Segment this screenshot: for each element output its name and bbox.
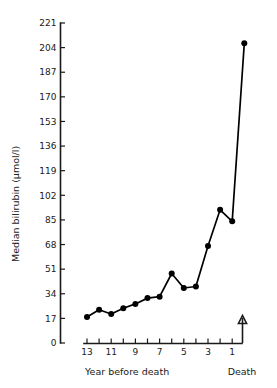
y-tick-label: 170 [39, 92, 56, 102]
bilirubin-line-chart: 01734516885102119136153170187204221 1311… [0, 0, 277, 388]
y-tick-label: 68 [45, 240, 57, 250]
data-point [145, 295, 151, 301]
x-tick-label: 7 [157, 347, 163, 357]
data-point [217, 207, 223, 213]
y-tick-label: 187 [39, 67, 56, 77]
y-tick-label: 136 [39, 141, 56, 151]
data-point [157, 294, 163, 300]
data-point [169, 271, 175, 277]
y-tick-label: 204 [39, 43, 56, 53]
data-series-line [87, 43, 244, 317]
x-tick-label: 1 [229, 347, 235, 357]
data-point [120, 305, 126, 311]
x-axis-title: Year before death [84, 366, 169, 377]
y-axis-tick-labels: 01734516885102119136153170187204221 [39, 18, 56, 348]
x-tick-label: 13 [81, 347, 92, 357]
x-axis-tick-labels: 131197531 [81, 347, 235, 357]
y-axis-title: Median bilirubin (µmol/l) [10, 146, 21, 262]
x-tick-label: 11 [105, 347, 116, 357]
y-tick-label: 34 [45, 289, 57, 299]
data-point [205, 243, 211, 249]
data-point [132, 301, 138, 307]
y-tick-label: 102 [39, 191, 56, 201]
data-point [108, 311, 114, 317]
data-point [241, 40, 247, 46]
data-point [181, 285, 187, 291]
death-label: Death [228, 366, 257, 377]
y-tick-label: 221 [39, 18, 56, 28]
y-tick-label: 51 [45, 264, 56, 274]
y-tick-label: 85 [45, 215, 56, 225]
x-tick-label: 3 [205, 347, 211, 357]
data-point [229, 218, 235, 224]
chart-container: 01734516885102119136153170187204221 1311… [0, 0, 277, 388]
data-point [84, 314, 90, 320]
x-axis-ticks [87, 339, 232, 344]
y-tick-label: 17 [45, 314, 56, 324]
death-arrow-icon [238, 316, 246, 344]
data-point [193, 284, 199, 290]
data-series-points [84, 40, 247, 320]
x-tick-label: 5 [181, 347, 187, 357]
x-tick-label: 9 [133, 347, 139, 357]
y-tick-label: 153 [39, 117, 56, 127]
data-point [96, 307, 102, 313]
y-tick-label: 119 [39, 166, 56, 176]
y-tick-label: 0 [51, 338, 57, 348]
